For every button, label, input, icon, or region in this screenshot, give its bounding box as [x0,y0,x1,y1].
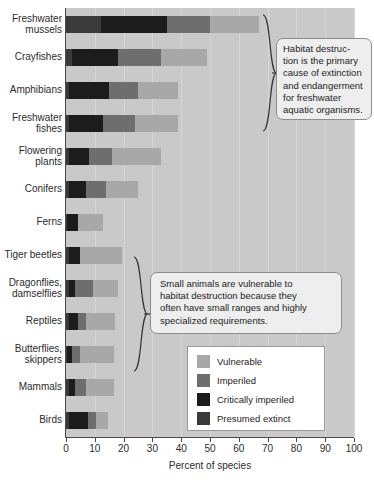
y-axis-category-label: Birds [0,414,62,425]
x-axis-tick [152,438,153,442]
bar-stack[interactable] [66,16,354,33]
bar-segment[interactable] [88,412,97,429]
bar-segment[interactable] [69,115,104,132]
legend-label: Imperiled [217,375,256,386]
bar-stack[interactable] [66,214,354,231]
swatch-presumed-extinct [197,412,210,425]
chart-figure: 0102030405060708090100 Percent of specie… [0,0,374,484]
y-axis-category-label: Reptiles [0,315,62,326]
x-axis-tick [268,438,269,442]
bar-segment[interactable] [103,115,135,132]
x-axis-label: Percent of species [66,460,354,471]
legend-label: Vulnerable [217,356,262,367]
y-axis-category-label: Freshwaterfishes [0,112,62,134]
callout-line: for freshwater [283,92,365,104]
legend: VulnerableImperiledCritically imperiledP… [187,346,325,431]
x-axis-tick [124,438,125,442]
x-axis-tick-label: 70 [262,443,273,454]
legend-label: Presumed extinct [217,413,290,424]
bar-segment[interactable] [86,379,113,396]
x-axis-tick [296,438,297,442]
bar-segment[interactable] [93,280,117,297]
y-axis-category-label: Conifers [0,183,62,194]
x-axis-tick [354,438,355,442]
bar-segment[interactable] [161,49,207,66]
x-axis-tick-label: 100 [346,443,363,454]
callout-small-animals: Small animals are vulnerable to habitat … [150,272,342,334]
x-axis-tick [210,438,211,442]
callout-line: specialized requirements. [160,315,332,327]
y-axis-spine [65,8,66,438]
legend-item[interactable]: Critically imperiled [197,390,324,409]
bar-segment[interactable] [101,16,167,33]
bar-segment[interactable] [72,49,118,66]
callout-line: often have small ranges and highly [160,302,332,314]
bar-stack[interactable] [66,148,354,165]
x-axis-tick-label: 10 [89,443,100,454]
legend-item[interactable]: Presumed extinct [197,409,324,428]
swatch-critically-imperiled [197,393,210,406]
callout-line: tion is the primary [283,55,365,67]
legend-label: Critically imperiled [217,394,294,405]
y-axis-category-label: Crayfishes [0,51,62,62]
x-axis-tick-label: 90 [320,443,331,454]
bar-segment[interactable] [96,412,108,429]
x-axis-tick-label: 50 [204,443,215,454]
callout-line: and endangerment [283,80,365,92]
bar-stack[interactable] [66,181,354,198]
y-axis-category-label: Mammals [0,381,62,392]
x-axis-tick-label: 40 [176,443,187,454]
bar-segment[interactable] [69,181,86,198]
callout-line: Habitat destruc- [283,43,365,55]
y-axis-category-label: Floweringplants [0,145,62,167]
bar-segment[interactable] [69,313,78,330]
x-axis-tick-label: 0 [63,443,69,454]
legend-item[interactable]: Vulnerable [197,352,324,371]
bar-segment[interactable] [167,16,210,33]
y-axis-labels: FreshwatermusselsCrayfishesAmphibiansFre… [0,0,62,484]
callout-habitat-destruction: Habitat destruc- tion is the primary cau… [276,38,372,120]
x-axis-tick [239,438,240,442]
bar-segment[interactable] [109,82,138,99]
bar-segment[interactable] [80,247,122,264]
bar-segment[interactable] [118,49,161,66]
bar-segment[interactable] [210,16,259,33]
bar-segment[interactable] [106,181,138,198]
bar-segment[interactable] [138,82,178,99]
y-axis-category-label: Amphibians [0,84,62,95]
bar-segment[interactable] [66,16,101,33]
x-axis-tick [181,438,182,442]
callout-line: aquatic organisms. [283,104,365,116]
bar-segment[interactable] [86,313,115,330]
x-axis-tick-label: 80 [291,443,302,454]
bar-segment[interactable] [69,82,109,99]
bar-segment[interactable] [80,346,113,363]
y-axis-category-label: Dragonflies,damselflies [0,277,62,299]
bar-segment[interactable] [78,313,87,330]
bar-segment[interactable] [69,247,81,264]
y-axis-category-label: Ferns [0,216,62,227]
y-axis-category-label: Tiger beetles [0,249,62,260]
bar-segment[interactable] [112,148,161,165]
bar-segment[interactable] [69,148,89,165]
callout-line: Small animals are vulnerable to [160,278,332,290]
bar-segment[interactable] [89,148,112,165]
bar-segment[interactable] [135,115,178,132]
bar-segment[interactable] [78,214,104,231]
bar-segment[interactable] [86,181,106,198]
callout-line: cause of extinction [283,67,365,79]
bar-segment[interactable] [67,214,77,231]
bar-segment[interactable] [72,346,81,363]
x-axis-tick [66,438,67,442]
callout-line: habitat destruction because they [160,290,332,302]
bar-segment[interactable] [69,412,88,429]
x-axis-tick-label: 30 [147,443,158,454]
swatch-vulnerable [197,355,210,368]
y-axis-category-label: Freshwatermussels [0,13,62,35]
bar-segment[interactable] [75,280,94,297]
legend-item[interactable]: Imperiled [197,371,324,390]
bar-stack[interactable] [66,247,354,264]
x-axis-tick [325,438,326,442]
y-axis-category-label: Butterflies,skippers [0,343,62,365]
bar-segment[interactable] [75,379,87,396]
